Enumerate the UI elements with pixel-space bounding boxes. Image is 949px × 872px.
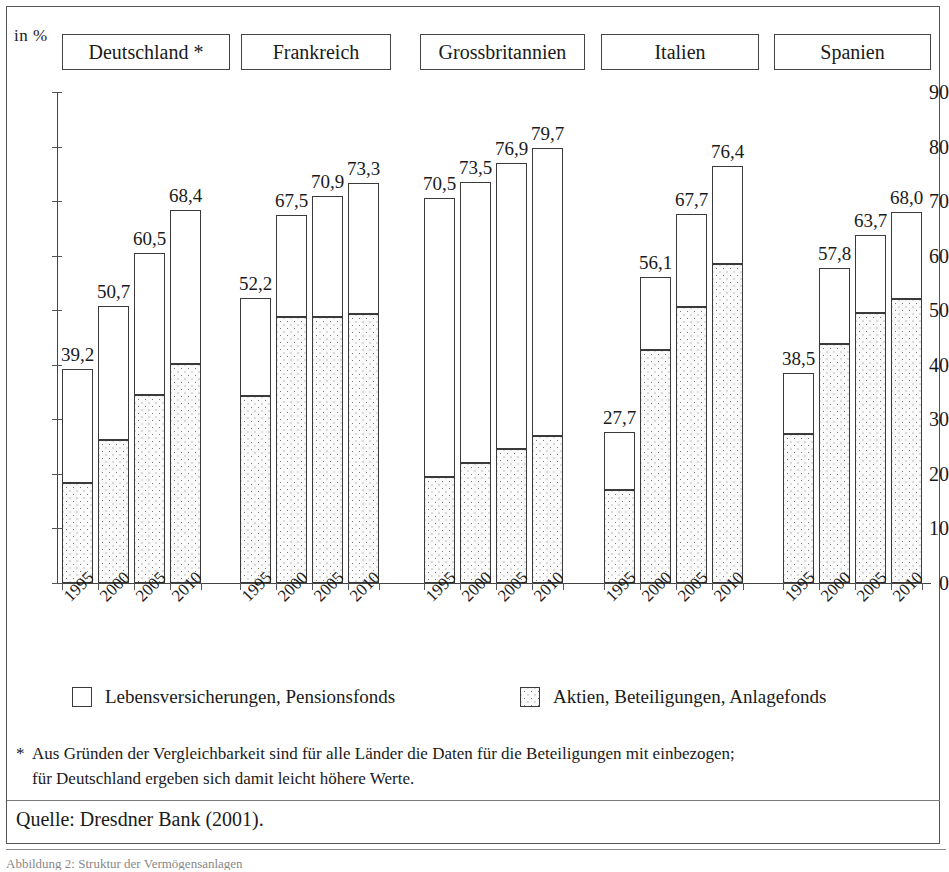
y-axis-unit-label: in % bbox=[14, 26, 48, 46]
bar-value-label: 67,7 bbox=[675, 189, 708, 211]
bottom-rule bbox=[6, 849, 946, 850]
y-tick-label-90: 90 bbox=[907, 81, 949, 104]
bar-value-label: 27,7 bbox=[603, 407, 636, 429]
bar bbox=[891, 212, 922, 583]
bar-value-label: 38,5 bbox=[782, 348, 815, 370]
country-header-5: Spanien bbox=[774, 34, 931, 70]
bar-segment-life-insurance bbox=[276, 215, 307, 318]
y-tick-mark-50 bbox=[52, 310, 62, 311]
y-tick-mark-70 bbox=[52, 201, 62, 202]
bar bbox=[712, 166, 743, 583]
bar-segment-life-insurance bbox=[604, 432, 635, 490]
bar bbox=[62, 369, 93, 583]
bar bbox=[676, 214, 707, 583]
bar-segment-life-insurance bbox=[62, 369, 93, 482]
bar-segment-equity bbox=[604, 490, 635, 583]
bar-value-label: 60,5 bbox=[133, 228, 166, 250]
bar-value-label: 73,5 bbox=[459, 157, 492, 179]
figure-caption: Abbildung 2: Struktur der Vermögensanlag… bbox=[6, 856, 243, 870]
bar-value-label: 68,4 bbox=[169, 185, 202, 207]
bar-segment-equity bbox=[783, 434, 814, 583]
bar-value-label: 76,4 bbox=[711, 141, 744, 163]
bar bbox=[819, 268, 850, 583]
bar-value-label: 76,9 bbox=[495, 138, 528, 160]
bar-segment-equity bbox=[424, 477, 455, 583]
bar-segment-equity bbox=[170, 364, 201, 583]
bar-segment-life-insurance bbox=[819, 268, 850, 344]
bar bbox=[783, 373, 814, 583]
country-header-2: Frankreich bbox=[241, 34, 391, 70]
bar-value-label: 70,9 bbox=[311, 171, 344, 193]
footnote-line-2: für Deutschland ergeben sich damit leich… bbox=[16, 767, 926, 792]
country-header-4: Italien bbox=[601, 34, 759, 70]
bar-segment-life-insurance bbox=[855, 235, 886, 313]
country-header-1: Deutschland * bbox=[62, 34, 230, 70]
bar-segment-equity bbox=[240, 396, 271, 583]
y-tick-mark-0 bbox=[52, 583, 62, 584]
bar-segment-life-insurance bbox=[676, 214, 707, 307]
bar-segment-equity bbox=[62, 483, 93, 583]
legend-entry-2: Aktien, Beteiligungen, Anlagefonds bbox=[520, 686, 826, 708]
bar-segment-equity bbox=[676, 307, 707, 583]
footnote: * Aus Gründen der Vergleichbarkeit sind … bbox=[16, 742, 926, 791]
bar-segment-life-insurance bbox=[532, 148, 563, 436]
footnote-marker: * bbox=[16, 742, 25, 767]
bar bbox=[240, 298, 271, 583]
bar-segment-equity bbox=[98, 440, 129, 583]
bar-segment-equity bbox=[348, 314, 379, 583]
bar-segment-life-insurance bbox=[460, 182, 491, 463]
bar-segment-equity bbox=[276, 317, 307, 583]
dotted-square-icon bbox=[520, 687, 540, 707]
y-tick-mark-90 bbox=[52, 92, 62, 93]
bar bbox=[532, 148, 563, 583]
country-header-3: Grossbritannien bbox=[420, 34, 585, 70]
bar bbox=[424, 198, 455, 583]
chart-legend: Lebensversicherungen, PensionsfondsAktie… bbox=[0, 686, 949, 720]
y-tick-mark-60 bbox=[52, 256, 62, 257]
bar-segment-life-insurance bbox=[424, 198, 455, 476]
bar-segment-life-insurance bbox=[640, 277, 671, 350]
y-tick-mark-30 bbox=[52, 419, 62, 420]
legend-label: Aktien, Beteiligungen, Anlagefonds bbox=[553, 686, 826, 708]
bar-segment-life-insurance bbox=[170, 210, 201, 364]
bar bbox=[276, 215, 307, 583]
y-tick-mark-80 bbox=[52, 147, 62, 148]
source-line: Quelle: Dresdner Bank (2001). bbox=[16, 808, 264, 831]
bar-value-label: 79,7 bbox=[531, 123, 564, 145]
bar-segment-life-insurance bbox=[312, 196, 343, 317]
bar-value-label: 52,2 bbox=[239, 273, 272, 295]
bar bbox=[604, 432, 635, 583]
bar-segment-equity bbox=[891, 299, 922, 583]
y-tick-mark-10 bbox=[52, 528, 62, 529]
source-divider bbox=[7, 800, 940, 801]
legend-label: Lebensversicherungen, Pensionsfonds bbox=[105, 686, 395, 708]
bar-segment-life-insurance bbox=[496, 163, 527, 449]
bar-value-label: 67,5 bbox=[275, 190, 308, 212]
bar bbox=[460, 182, 491, 583]
bar-value-label: 73,3 bbox=[347, 158, 380, 180]
bar-value-label: 63,7 bbox=[854, 210, 887, 232]
bar bbox=[640, 277, 671, 583]
bar-value-label: 39,2 bbox=[61, 344, 94, 366]
bar-segment-equity bbox=[134, 395, 165, 583]
bar-segment-equity bbox=[496, 449, 527, 583]
bar bbox=[312, 196, 343, 583]
bar-segment-equity bbox=[712, 264, 743, 583]
bar bbox=[855, 235, 886, 583]
bar bbox=[134, 253, 165, 583]
bar-segment-equity bbox=[640, 350, 671, 583]
bar bbox=[496, 163, 527, 583]
bar-segment-life-insurance bbox=[891, 212, 922, 299]
bar-segment-equity bbox=[855, 313, 886, 583]
legend-entry-1: Lebensversicherungen, Pensionsfonds bbox=[72, 686, 395, 708]
bar-segment-equity bbox=[819, 344, 850, 583]
bar-segment-life-insurance bbox=[783, 373, 814, 434]
bar-segment-equity bbox=[532, 436, 563, 583]
y-tick-mark-20 bbox=[52, 474, 62, 475]
y-axis-line bbox=[57, 92, 58, 584]
bar-segment-life-insurance bbox=[240, 298, 271, 396]
bar-segment-life-insurance bbox=[134, 253, 165, 395]
white-square-icon bbox=[72, 687, 92, 707]
bar-value-label: 70,5 bbox=[423, 173, 456, 195]
bar bbox=[98, 306, 129, 583]
